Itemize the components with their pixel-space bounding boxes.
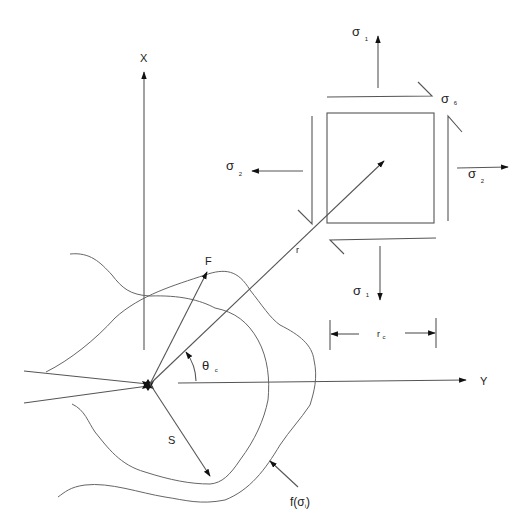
shear-label: σ 6 xyxy=(441,91,458,106)
sigma1-top-arrow: σ 1 xyxy=(352,24,378,88)
shear-arrows: σ 6 xyxy=(298,82,462,254)
rc-label: r c xyxy=(377,329,386,340)
x-axis: X xyxy=(140,52,148,350)
failure-curve-outer xyxy=(46,271,316,502)
safe-vector: S xyxy=(150,384,210,476)
y-axis-label: Y xyxy=(480,375,488,387)
failure-curve-inner xyxy=(70,254,269,484)
stress-element xyxy=(327,113,434,223)
failure-curve-label-group: f(σi) xyxy=(270,461,310,509)
safe-vector-label: S xyxy=(168,434,175,446)
sigma2-left-arrow: σ 2 xyxy=(226,158,303,177)
sigma2-left-label: σ 2 xyxy=(226,158,243,177)
crack xyxy=(24,371,154,403)
crack-tip-stress-diagram: X Y r F S θ c f(σi) xyxy=(0,0,526,521)
failure-vector-label: F xyxy=(205,255,212,267)
sigma1-bottom-arrow: σ 1 xyxy=(353,246,380,300)
sigma2-right-label: σ 2 xyxy=(468,166,485,184)
x-axis-label: X xyxy=(140,52,148,64)
radius-vector: r xyxy=(150,161,384,384)
sigma2-right-arrow: σ 2 xyxy=(457,166,508,184)
y-axis: Y xyxy=(178,375,488,387)
sigma1-top-label: σ 1 xyxy=(352,24,369,42)
angle-arc: θ c xyxy=(186,352,218,381)
rc-dimension: r c xyxy=(330,318,436,350)
radius-label: r xyxy=(296,245,299,255)
failure-curve-label: f(σi) xyxy=(290,495,310,509)
theta-label: θ c xyxy=(202,358,218,373)
sigma1-bottom-label: σ 1 xyxy=(353,283,370,298)
